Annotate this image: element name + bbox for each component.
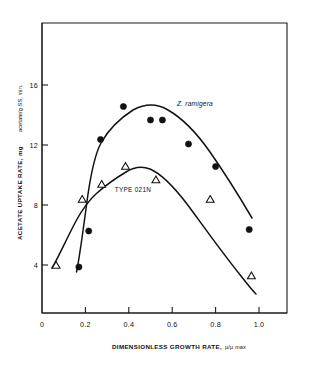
z-ramigera-point-1	[76, 264, 82, 270]
x-axis-label: DIMENSIONLESS GROWTH RATE,	[112, 343, 222, 350]
type-021n-point-7	[248, 272, 256, 279]
type-021n-label: TYPE 021N	[115, 186, 152, 193]
x-axis-tick-labels: 0 0.2 0.4 0.6 0.8 1.0	[40, 320, 264, 329]
y-ticklabel-16: 16	[30, 81, 38, 90]
y-ticklabel-12: 12	[30, 141, 38, 150]
z-ramigera-point-4	[120, 103, 126, 109]
y-axis-tick-labels: 16 12 8 4	[30, 81, 38, 270]
y-ticklabel-4: 4	[34, 261, 38, 270]
x-ticklabel-0: 0	[40, 320, 44, 329]
type-021n-point-4	[122, 163, 130, 170]
z-ramigera-point-5	[147, 117, 153, 123]
x-axis-label-group: DIMENSIONLESS GROWTH RATE, μ/μ max	[112, 343, 246, 350]
acetate-uptake-chart: 16 12 8 4 0 0.2 0.4 0.6 0.8 1.0 DIMENSIO…	[0, 0, 310, 380]
type-021n-point-3	[98, 181, 106, 188]
x-ticklabel-0-2: 0.2	[80, 320, 91, 329]
x-ticklabel-1-0: 1.0	[254, 320, 265, 329]
z-ramigera-label: Z. ramigera	[176, 100, 213, 108]
series-type-021n: TYPE 021N	[52, 163, 256, 295]
z-ramigera-point-6	[159, 117, 165, 123]
y-axis-label-units: acetate/g SS, min.	[17, 84, 23, 132]
y-axis-label-group: ACETATE UPTAKE RATE, mg acetate/g SS, mi…	[16, 84, 23, 240]
x-axis-ticks	[85, 307, 259, 313]
type-021n-point-6	[206, 196, 214, 203]
type-021n-markers	[52, 163, 255, 279]
type-021n-point-5	[152, 176, 160, 183]
type-021n-point-2	[78, 196, 86, 203]
z-ramigera-point-3	[98, 136, 104, 142]
y-ticklabel-8: 8	[34, 201, 38, 210]
z-ramigera-point-7	[185, 141, 191, 147]
z-ramigera-point-9	[246, 226, 252, 232]
y-axis-label: ACETATE UPTAKE RATE, mg	[16, 146, 23, 240]
z-ramigera-point-8	[213, 163, 219, 169]
figure-container: 16 12 8 4 0 0.2 0.4 0.6 0.8 1.0 DIMENSIO…	[0, 0, 310, 380]
z-ramigera-point-2	[86, 228, 92, 234]
y-axis-ticks	[42, 85, 48, 265]
x-ticklabel-0-8: 0.8	[210, 320, 221, 329]
x-axis-label-units: μ/μ max	[225, 344, 246, 350]
x-ticklabel-0-6: 0.6	[167, 320, 178, 329]
x-ticklabel-0-4: 0.4	[124, 320, 135, 329]
